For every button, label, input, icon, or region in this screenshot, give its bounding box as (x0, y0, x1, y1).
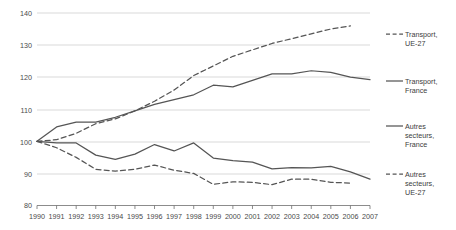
x-tick-label-1996: 1996 (147, 212, 163, 221)
x-tick-label-2004: 2004 (303, 212, 319, 221)
x-tick-label-1998: 1998 (186, 212, 202, 221)
y-tick-label-100: 100 (20, 138, 32, 147)
line-chart-container: 140 130 120 110 100 90 80 19901991199219… (0, 0, 456, 230)
x-axis-tick-labels: 1990199119921993199419951996199719981999… (29, 212, 378, 221)
legend-label-transport-france-line1: Transport, (405, 77, 438, 86)
legend: Transport, UE-27 Transport, France Autre… (386, 30, 438, 197)
legend-item-transport-france[interactable]: Transport, France (386, 77, 438, 95)
legend-label-transport-ue27-line1: Transport, (405, 30, 438, 39)
legend-label-autres-ue27-line2: secteurs, (405, 179, 434, 188)
x-tick-label-2005: 2005 (323, 212, 339, 221)
series-line-autres-secteurs-france (37, 141, 370, 179)
x-tick-label-1993: 1993 (88, 212, 104, 221)
legend-label-transport-france-line2: France (405, 86, 427, 95)
legend-item-transport-ue27[interactable]: Transport, UE-27 (386, 30, 438, 48)
legend-label-transport-ue27-line2: UE-27 (405, 39, 425, 48)
y-tick-label-120: 120 (20, 73, 32, 82)
x-tick-label-2003: 2003 (284, 212, 300, 221)
legend-label-autres-ue27-line1: Autres (405, 170, 426, 179)
x-tick-label-2001: 2001 (244, 212, 260, 221)
x-tick-label-1994: 1994 (107, 212, 123, 221)
series-line-transport-ue-27 (37, 26, 350, 142)
y-tick-label-90: 90 (24, 170, 32, 179)
x-tick-label-2002: 2002 (264, 212, 280, 221)
legend-item-autres-secteurs-france[interactable]: Autres secteurs, France (386, 122, 434, 149)
legend-label-autres-france-line2: secteurs, (405, 131, 434, 140)
y-tick-label-140: 140 (20, 9, 32, 18)
x-tick-label-2006: 2006 (342, 212, 358, 221)
x-tick-label-1991: 1991 (49, 212, 65, 221)
y-tick-label-110: 110 (21, 106, 32, 115)
legend-label-autres-france-line3: France (405, 140, 427, 149)
x-axis-ticks (37, 206, 370, 210)
legend-label-autres-france-line1: Autres (405, 122, 426, 131)
legend-label-autres-ue27-line3: UE-27 (405, 188, 425, 197)
x-tick-label-2007: 2007 (362, 212, 378, 221)
x-tick-label-1999: 1999 (205, 212, 221, 221)
y-tick-label-80: 80 (24, 201, 32, 210)
x-tick-label-1997: 1997 (166, 212, 182, 221)
x-tick-label-1995: 1995 (127, 212, 143, 221)
y-tick-label-130: 130 (20, 41, 32, 50)
data-series-group (37, 26, 370, 185)
x-tick-label-2000: 2000 (225, 212, 241, 221)
series-line-transport-france (37, 71, 370, 142)
y-axis-tick-labels: 140 130 120 110 100 90 80 (20, 9, 32, 211)
chart-canvas: 140 130 120 110 100 90 80 19901991199219… (0, 0, 456, 230)
legend-item-autres-secteurs-ue27[interactable]: Autres secteurs, UE-27 (386, 170, 434, 197)
x-tick-label-1992: 1992 (68, 212, 84, 221)
x-tick-label-1990: 1990 (29, 212, 45, 221)
